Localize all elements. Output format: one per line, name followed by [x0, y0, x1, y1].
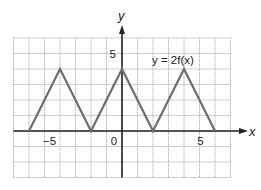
x-axis-label: x: [248, 124, 256, 139]
y-axis-label: y: [117, 8, 126, 23]
y-tick-label: 5: [110, 48, 116, 60]
x-tick-label: 5: [197, 135, 203, 147]
axes: [14, 25, 249, 178]
y-axis-arrow-icon: [119, 25, 125, 34]
y-tick-labels: 5: [110, 48, 116, 60]
x-tick-label: 0: [111, 135, 117, 147]
function-graph: y x y = 2f(x) −505 5: [0, 0, 261, 190]
x-tick-label: −5: [43, 135, 56, 147]
x-axis-arrow-icon: [239, 128, 248, 134]
function-label: y = 2f(x): [152, 54, 194, 66]
x-tick-labels: −505: [43, 135, 204, 147]
